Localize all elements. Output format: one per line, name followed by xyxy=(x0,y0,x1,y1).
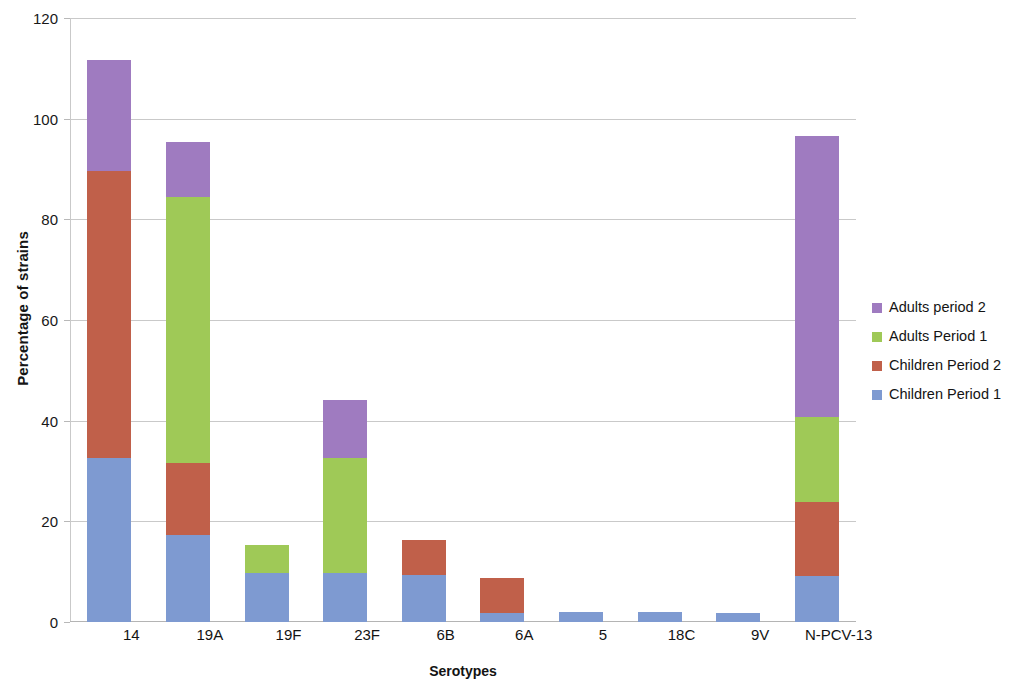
bar-segment[interactable] xyxy=(323,458,367,573)
bar-stack[interactable] xyxy=(559,612,603,622)
legend-label: Children Period 2 xyxy=(889,358,1001,373)
legend-label: Adults Period 1 xyxy=(889,329,987,344)
y-tick-mark xyxy=(64,622,70,623)
bar-segment[interactable] xyxy=(245,573,289,622)
bar-stack[interactable] xyxy=(323,400,367,622)
x-axis-title: Serotypes xyxy=(70,663,856,679)
legend-item[interactable]: Adults Period 1 xyxy=(872,322,1007,351)
bar-segment[interactable] xyxy=(166,197,210,463)
x-tick-label: N-PCV-13 xyxy=(784,626,894,643)
y-tick-mark xyxy=(64,119,70,120)
bar-segment[interactable] xyxy=(166,142,210,197)
bar-segment[interactable] xyxy=(480,578,524,613)
y-tick-label: 80 xyxy=(12,212,58,227)
bar-segment[interactable] xyxy=(166,535,210,622)
gridline xyxy=(70,18,856,19)
plot-area: 020406080100120 1419A19F23F6B6A518C9VN-P… xyxy=(70,18,856,622)
y-tick-mark xyxy=(64,421,70,422)
y-axis-title: Percentage of strains xyxy=(14,209,31,409)
bar-segment[interactable] xyxy=(480,613,524,622)
bar-stack[interactable] xyxy=(480,578,524,622)
y-tick-label: 20 xyxy=(12,514,58,529)
legend-label: Adults period 2 xyxy=(889,300,986,315)
bar-segment[interactable] xyxy=(559,612,603,622)
y-tick-label: 100 xyxy=(12,112,58,127)
bar-segment[interactable] xyxy=(795,502,839,576)
bar-segment[interactable] xyxy=(245,545,289,573)
bar-segment[interactable] xyxy=(166,463,210,535)
bar-segment[interactable] xyxy=(87,458,131,622)
bar-segment[interactable] xyxy=(402,540,446,575)
legend-swatch-icon xyxy=(872,361,882,371)
bar-segment[interactable] xyxy=(795,136,839,417)
y-tick-label: 120 xyxy=(12,11,58,26)
y-tick-label: 0 xyxy=(12,615,58,630)
bar-stack[interactable] xyxy=(638,612,682,622)
bar-segment[interactable] xyxy=(795,417,839,502)
y-tick-mark xyxy=(64,320,70,321)
y-tick-label: 40 xyxy=(12,414,58,429)
y-tick-mark xyxy=(64,18,70,19)
bar-segment[interactable] xyxy=(323,400,367,458)
gridline xyxy=(70,119,856,120)
legend-swatch-icon xyxy=(872,303,882,313)
bar-segment[interactable] xyxy=(402,575,446,622)
bar-stack[interactable] xyxy=(166,142,210,622)
legend-item[interactable]: Adults period 2 xyxy=(872,293,1007,322)
legend-swatch-icon xyxy=(872,332,882,342)
legend-swatch-icon xyxy=(872,390,882,400)
bar-segment[interactable] xyxy=(795,576,839,622)
bar-segment[interactable] xyxy=(638,612,682,622)
bar-stack[interactable] xyxy=(245,545,289,622)
y-tick-label: 60 xyxy=(12,313,58,328)
y-tick-mark xyxy=(64,521,70,522)
bar-segment[interactable] xyxy=(87,171,131,459)
bar-segment[interactable] xyxy=(87,60,131,171)
legend-item[interactable]: Children Period 2 xyxy=(872,351,1007,380)
bar-segment[interactable] xyxy=(716,613,760,622)
legend-label: Children Period 1 xyxy=(889,387,1001,402)
legend-item[interactable]: Children Period 1 xyxy=(872,380,1007,409)
bar-segment[interactable] xyxy=(323,573,367,622)
bar-stack[interactable] xyxy=(87,60,131,622)
chart-legend: Adults period 2Adults Period 1Children P… xyxy=(872,293,1007,409)
y-tick-mark xyxy=(64,219,70,220)
bar-stack[interactable] xyxy=(795,136,839,622)
bar-stack[interactable] xyxy=(402,540,446,622)
bar-stack[interactable] xyxy=(716,613,760,622)
